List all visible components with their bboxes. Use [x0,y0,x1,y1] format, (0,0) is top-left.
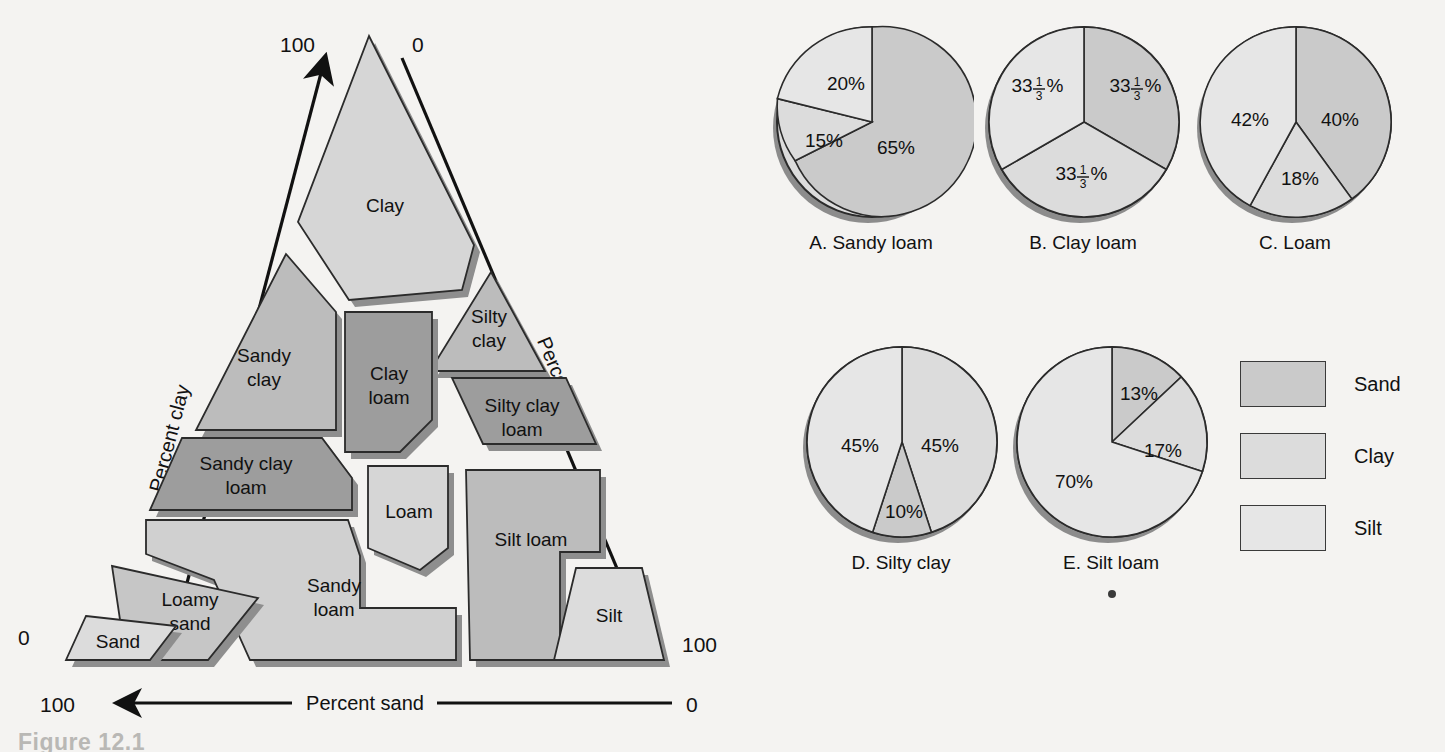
corner-num-left-clay-zero: 0 [18,626,30,649]
pie-chart-e-silt-loam: 13% 17% 70% E. Silt loam [1008,340,1214,576]
axis-percent-sand: Percent sand [118,692,672,714]
axis-sand-label: Percent sand [306,692,424,714]
legend-swatch-sand [1240,361,1326,407]
region-sandy-clay: Sandy clay [196,254,342,437]
figure-page: Percent clay Percent silt Percent sand 1… [0,0,1445,752]
pie-chart-d-silty-clay: 45% 10% 45% D. Silty clay [798,340,1004,576]
region-silty-clay-label-1: Silty [471,306,507,327]
svg-text:33: 33 [1055,163,1076,184]
pie-e-value-clay: 17% [1144,440,1182,461]
figure-caption: Figure 12.1 [18,729,145,752]
region-clay-loam-label-1: Clay [370,363,409,384]
region-sandy-clay-label-1: Sandy [237,345,291,366]
pie-a-value-clay: 15% [805,130,843,151]
legend-label-clay: Clay [1354,445,1394,468]
region-sandy-clay-loam-label-1: Sandy clay [200,453,293,474]
corner-num-right-sand-zero: 0 [686,693,698,716]
legend-swatch-clay [1240,433,1326,479]
pie-e-svg: 13% 17% 70% [1008,340,1214,546]
pie-a-value-sand: 65% [877,137,915,158]
legend: Sand Clay Silt [1240,348,1440,564]
corner-num-top-right: 0 [412,33,424,56]
legend-item-clay: Clay [1240,420,1440,492]
legend-label-sand: Sand [1354,373,1401,396]
region-silty-clay-loam-label-1: Silty clay [485,395,560,416]
region-silty-clay-loam-label-2: loam [501,419,542,440]
region-silt-label: Silt [596,605,623,626]
svg-text:33: 33 [1109,75,1130,96]
svg-text:3: 3 [1134,89,1141,103]
pie-c-value-sand: 40% [1321,109,1359,130]
pie-d-svg: 45% 10% 45% [798,340,1004,546]
pie-c-value-silt: 42% [1231,109,1269,130]
pie-b-svg: 33 1 3 % 33 1 3 % 33 1 [980,20,1186,226]
region-sand-label: Sand [96,631,140,652]
svg-text:1: 1 [1134,75,1141,89]
legend-label-silt: Silt [1354,517,1382,540]
pie-a-caption: A. Sandy loam [768,232,974,254]
pie-chart-a-sandy-loam: 65% 15% 20% A. Sandy loam [768,20,974,256]
region-clay-loam: Clay loam [345,312,438,459]
soil-texture-triangle: Percent clay Percent silt Percent sand 1… [0,0,740,752]
svg-text:3: 3 [1036,89,1043,103]
pie-d-value-clay: 45% [921,435,959,456]
pie-c-svg: 40% 18% 42% [1192,20,1398,226]
region-sandy-clay-label-2: clay [247,369,281,390]
svg-text:33: 33 [1011,75,1032,96]
region-silt-loam-label: Silt loam [495,529,568,550]
pie-e-value-silt: 70% [1055,471,1093,492]
pie-b-caption: B. Clay loam [980,232,1186,254]
region-loamy-sand-label-2: sand [169,613,210,634]
pie-chart-b-clay-loam: 33 1 3 % 33 1 3 % 33 1 [980,20,1186,256]
pie-d-value-silt: 45% [841,435,879,456]
pie-a-svg: 65% 15% 20% [768,20,974,226]
pie-chart-c-loam: 40% 18% 42% C. Loam [1192,20,1398,256]
legend-item-silt: Silt [1240,492,1440,564]
pie-d-value-sand: 10% [885,501,923,522]
region-silty-clay-label-2: clay [472,330,506,351]
region-clay-loam-label-2: loam [368,387,409,408]
region-sandy-clay-loam: Sandy clay loam [150,438,358,517]
svg-text:%: % [1047,75,1064,96]
stray-dot-mark [1108,590,1116,598]
corner-num-top-left: 100 [280,33,315,56]
triangle-svg: Percent clay Percent silt Percent sand 1… [0,0,740,752]
region-sandy-clay-loam-label-2: loam [225,477,266,498]
svg-text:1: 1 [1080,163,1087,177]
region-loamy-sand-label-1: Loamy [161,589,219,610]
svg-text:1: 1 [1036,75,1043,89]
region-loam: Loam [368,466,454,577]
region-sandy-loam-label-1: Sandy [307,575,361,596]
svg-text:%: % [1091,163,1108,184]
pie-c-caption: C. Loam [1192,232,1398,254]
region-loam-label: Loam [385,501,433,522]
svg-text:3: 3 [1080,177,1087,191]
region-silt: Silt [554,568,670,667]
region-silty-clay-loam: Silty clay loam [452,378,602,451]
region-sandy-clay-loam-face [150,438,352,510]
pie-d-caption: D. Silty clay [798,552,1004,574]
region-clay: Clay [298,36,480,307]
svg-text:%: % [1145,75,1162,96]
legend-swatch-silt [1240,505,1326,551]
region-sandy-loam-label-2: loam [313,599,354,620]
region-clay-label: Clay [366,195,405,216]
legend-item-sand: Sand [1240,348,1440,420]
corner-num-right-silt-hundred: 100 [682,633,717,656]
corner-num-left-sand-hundred: 100 [40,693,75,716]
pie-e-value-sand: 13% [1120,383,1158,404]
pie-c-value-clay: 18% [1281,168,1319,189]
pie-a-value-silt: 20% [827,73,865,94]
pie-e-caption: E. Silt loam [1008,552,1214,574]
